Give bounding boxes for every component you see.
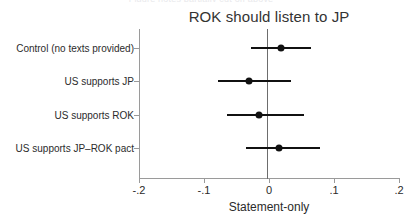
y-axis-tick <box>134 81 139 82</box>
y-axis-tick-label: US supports JP–ROK pact <box>0 143 134 154</box>
plot-area <box>139 29 399 178</box>
x-axis-tick <box>334 178 335 183</box>
x-axis-title: Statement-only <box>139 200 399 214</box>
y-axis-tick-label: Control (no texts provided) <box>0 42 134 53</box>
x-axis-tick-label: -.2 <box>133 184 146 196</box>
y-axis-spine <box>139 29 140 179</box>
y-axis-tick <box>134 48 139 49</box>
x-axis-tick-label: -.1 <box>198 184 211 196</box>
x-axis-tick-label: 0 <box>266 184 272 196</box>
x-axis-tick-label: .2 <box>394 184 403 196</box>
x-axis-tick <box>269 178 270 183</box>
clipped-caption-fragment: Figure notes partially cut off above <box>0 0 402 2</box>
y-axis-tick <box>134 115 139 116</box>
x-axis-tick <box>399 178 400 183</box>
estimate-point-marker <box>276 145 283 152</box>
estimate-point-marker <box>277 44 284 51</box>
x-axis-tick-label: .1 <box>329 184 338 196</box>
estimate-point-marker <box>245 78 252 85</box>
y-axis-tick-label: US supports ROK <box>0 109 134 120</box>
chart-title: ROK should listen to JP <box>139 8 399 25</box>
x-axis-tick <box>204 178 205 183</box>
y-axis-tick <box>134 148 139 149</box>
y-axis-tick-label: US supports JP <box>0 76 134 87</box>
zero-reference-line <box>267 29 268 179</box>
confidence-interval-bar <box>227 114 304 116</box>
x-axis-tick <box>139 178 140 183</box>
confidence-interval-bar <box>218 80 291 82</box>
estimate-point-marker <box>256 111 263 118</box>
